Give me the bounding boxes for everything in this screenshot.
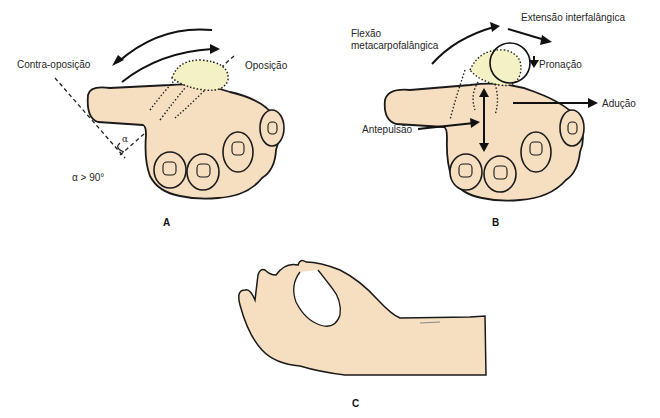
hand-c-ok-gesture <box>239 261 486 375</box>
label-opposition: Oposição <box>245 60 287 72</box>
label-mcp-flexion-line2: metacarpofalângica <box>351 40 438 52</box>
label-adduction: Adução <box>602 98 636 110</box>
panel-letter-a: A <box>163 217 170 228</box>
panel-c-illustration <box>239 261 486 375</box>
label-alpha-condition: α > 90° <box>72 172 104 184</box>
panel-letter-b: B <box>492 217 499 228</box>
label-pronation: Pronação <box>539 59 582 71</box>
label-ip-extension: Extensão interfalângica <box>521 12 625 24</box>
label-counter-opposition: Contra-oposição <box>17 59 90 71</box>
label-antepulsion: Antepulsão <box>362 124 412 136</box>
ip-extension-arrow <box>508 29 545 40</box>
label-mcp-flexion-line1: Flexão <box>351 28 381 40</box>
counter-opposition-arrow <box>118 29 212 62</box>
thumb-ghost-b <box>470 50 521 86</box>
label-alpha-symbol: α <box>122 133 128 145</box>
panel-letter-c: C <box>352 398 359 409</box>
